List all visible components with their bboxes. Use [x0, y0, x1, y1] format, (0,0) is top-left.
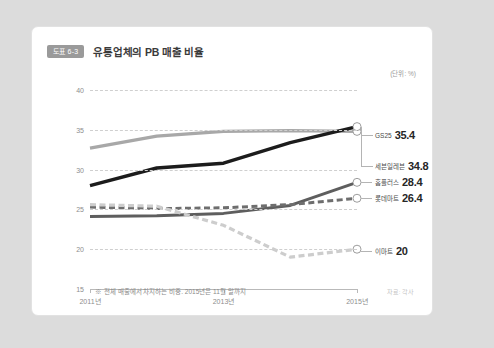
y-axis-label-20: 20 — [76, 246, 84, 253]
x-axis-tick-2015 — [357, 289, 358, 293]
series-end-label-홈플러스: 홈플러스28.4 — [375, 176, 422, 188]
series-name: 이마트 — [375, 246, 393, 256]
series-name: 홈플러스 — [375, 177, 399, 187]
x-axis-label-2015: 2015년 — [346, 296, 368, 306]
leader-line-이마트 — [361, 251, 372, 252]
gridline-30 — [90, 170, 357, 171]
series-lines — [90, 90, 357, 289]
footnote: ※ 전체 매출에서 차지하는 비중. 2015년은 11월 말까지 — [95, 286, 246, 296]
chart-card: 도표 6-3 유통업체의 PB 매출 비율 (단위: %) 4035302520… — [31, 26, 433, 316]
y-axis-label-35: 35 — [76, 126, 84, 133]
series-value: 35.4 — [395, 129, 415, 141]
x-axis-tick-2011 — [90, 289, 91, 293]
leader-line-세븐일레븐 — [361, 131, 373, 167]
line-GS25 — [90, 127, 357, 186]
series-name: GS25 — [375, 132, 392, 139]
y-axis-label-40: 40 — [76, 87, 84, 94]
series-value: 34.8 — [408, 160, 428, 172]
series-end-label-GS25: GS2535.4 — [375, 129, 415, 141]
source-note: 자료: 각사 — [387, 287, 414, 296]
series-value: 20 — [396, 245, 408, 257]
x-axis-label-2013: 2013년 — [213, 296, 235, 306]
line-홈플러스 — [90, 182, 357, 216]
end-marker-롯데마트 — [353, 194, 361, 202]
leader-line-홈플러스 — [361, 182, 372, 183]
x-axis-label-2011: 2011년 — [79, 296, 100, 306]
figure-badge: 도표 6-3 — [47, 45, 84, 58]
y-axis-label-15: 15 — [76, 286, 84, 293]
unit-label: (단위: %) — [390, 68, 416, 78]
chart-header: 도표 6-3 유통업체의 PB 매출 비율 — [47, 44, 204, 59]
series-end-label-세븐일레븐: 세븐일레븐34.8 — [375, 160, 428, 172]
gridline-40 — [90, 90, 357, 91]
end-marker-홈플러스 — [353, 178, 361, 186]
series-name: 롯데마트 — [375, 193, 399, 203]
y-axis-label-25: 25 — [76, 206, 84, 213]
series-name: 세븐일레븐 — [375, 161, 405, 171]
series-value: 28.4 — [402, 176, 422, 188]
series-end-label-이마트: 이마트20 — [375, 245, 408, 257]
line-세븐일레븐 — [90, 131, 357, 149]
series-end-label-롯데마트: 롯데마트26.4 — [375, 192, 422, 204]
plot-area: 4035302520152011년2013년2015년 — [90, 90, 357, 289]
y-axis-label-30: 30 — [76, 166, 84, 173]
gridline-35 — [90, 130, 357, 131]
page-title: 유통업체의 PB 매출 비율 — [93, 44, 204, 59]
gridline-25 — [90, 209, 357, 210]
series-value: 26.4 — [402, 192, 422, 204]
leader-line-롯데마트 — [361, 198, 372, 199]
gridline-20 — [90, 249, 357, 250]
